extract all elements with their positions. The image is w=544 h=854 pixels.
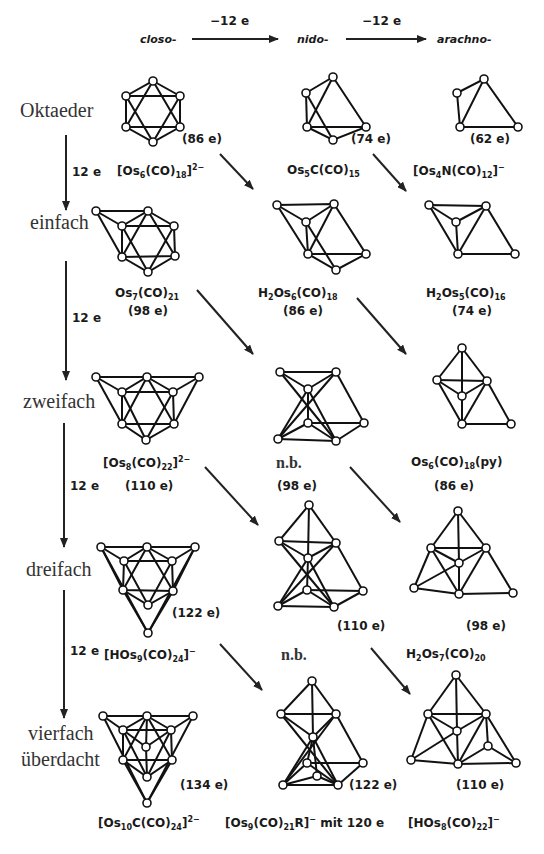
cluster-r0c2-butterfly <box>453 75 522 131</box>
diagram-canvas <box>0 0 544 854</box>
cluster-r2c0-bicapped-octahedron <box>92 373 203 444</box>
cluster-r0c0-octahedron <box>122 77 184 146</box>
cluster-r1c0-capped-octahedron <box>92 207 179 276</box>
cluster-r2c1-structure <box>274 368 368 445</box>
cluster-r1c1-capped-square-pyramid <box>273 200 370 274</box>
cluster-r2c2-structure <box>433 344 515 428</box>
cluster-r3c1-structure <box>274 501 367 611</box>
cluster-r3c2-structure <box>410 507 517 598</box>
cluster-r4c1-structure <box>277 677 367 789</box>
cluster-r4c2-structure <box>407 671 520 768</box>
cluster-r1c2-bicapped-tetrahedron <box>425 201 519 258</box>
cluster-r3c0-tricapped-octahedron <box>97 543 199 637</box>
cluster-r0c1-square-pyramid <box>302 73 370 144</box>
cluster-r4c0-tetracapped-octahedron <box>99 712 197 807</box>
